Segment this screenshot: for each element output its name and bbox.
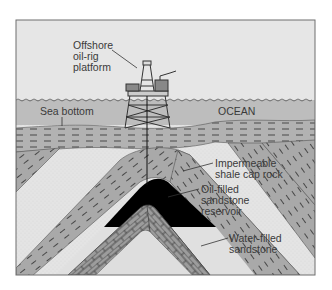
label-ocean: OCEAN [218,106,255,117]
label-offshore-rig: Offshore oil-rig platform [73,40,113,73]
label-line: shale cap rock [215,169,283,180]
label-cap-rock: Impermeable shale cap rock [215,158,283,180]
label-line: platform [73,62,113,73]
label-line: sandstone [229,244,282,255]
label-line: reservoir [201,206,249,217]
label-water-sandstone: Water-filled sandstone [229,233,282,255]
label-oil-reservoir: Oil-filled sandstone reservoir [201,184,249,217]
oil-trap-diagram [0,0,332,290]
label-sea-bottom: Sea bottom [40,106,94,117]
